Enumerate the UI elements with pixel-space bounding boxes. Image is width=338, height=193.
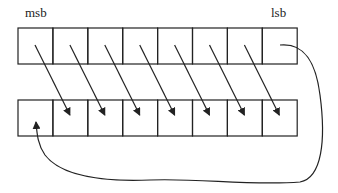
bottom-register xyxy=(18,100,297,136)
bottom-bit-cell xyxy=(18,100,53,136)
bottom-bit-cell xyxy=(227,100,262,136)
rotation-diagram xyxy=(0,0,338,193)
top-register xyxy=(18,28,297,64)
bottom-bit-cell xyxy=(158,100,193,136)
wraparound-arrow xyxy=(36,45,323,183)
bottom-bit-cell xyxy=(262,100,297,136)
bottom-bit-cell xyxy=(53,100,88,136)
bottom-bit-cell xyxy=(193,100,228,136)
bottom-bit-cell xyxy=(88,100,123,136)
bottom-bit-cell xyxy=(123,100,158,136)
